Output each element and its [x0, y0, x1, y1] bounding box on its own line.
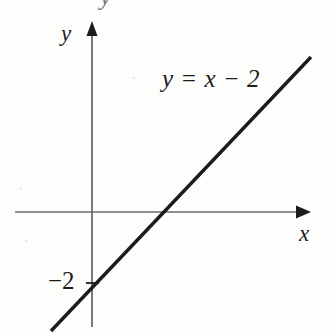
y-axis-label: y	[61, 22, 71, 45]
x-axis-arrowhead-icon	[296, 206, 311, 219]
scan-speck	[20, 188, 22, 190]
scan-speck	[25, 240, 27, 242]
x-axis-label: x	[299, 222, 309, 245]
linear-function-graph-figure: y y = x − 2 y x −2	[0, 0, 329, 336]
y-axis-arrowhead-icon	[87, 21, 98, 36]
y-intercept-label: −2	[48, 268, 75, 293]
equation-label: y = x − 2	[162, 66, 260, 91]
clipped-glyph-artifact: y	[100, 0, 111, 9]
scan-speck	[133, 77, 135, 79]
function-line	[51, 57, 311, 331]
